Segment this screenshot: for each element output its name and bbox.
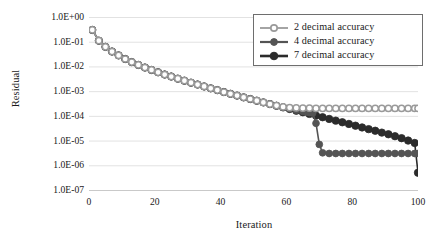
y-tick-label: 1.0E-03 — [28, 86, 84, 96]
x-tick-label: 60 — [266, 196, 306, 207]
data-point — [247, 96, 253, 102]
data-point — [241, 94, 247, 100]
data-point — [267, 101, 273, 107]
data-point — [122, 56, 128, 62]
data-point — [326, 150, 333, 157]
data-point — [392, 150, 399, 157]
data-point — [313, 105, 319, 111]
data-point — [102, 44, 108, 50]
data-point — [109, 48, 115, 54]
legend-item: 2 decimal accuracy — [259, 19, 416, 33]
data-point — [162, 71, 168, 77]
data-point — [332, 117, 339, 124]
data-point — [293, 105, 299, 111]
data-point — [398, 105, 404, 111]
data-point — [116, 52, 122, 58]
y-tick-label: 1.0E-07 — [28, 185, 84, 195]
y-tick-label: 1.0E-04 — [28, 111, 84, 121]
data-point — [366, 105, 372, 111]
data-point — [339, 150, 346, 157]
legend-item: 7 decimal accuracy — [259, 47, 416, 61]
data-point — [234, 93, 240, 99]
x-tick-label: 100 — [398, 196, 432, 207]
data-point — [188, 80, 194, 86]
data-point — [175, 76, 181, 82]
data-point — [129, 59, 135, 65]
data-point — [332, 150, 339, 157]
legend-label: 7 decimal accuracy — [294, 49, 374, 60]
data-point — [254, 98, 260, 104]
y-tick-label: 1.0E-06 — [28, 160, 84, 170]
data-point — [415, 105, 418, 111]
data-point — [168, 73, 174, 79]
legend-marker-icon — [259, 34, 289, 46]
data-point — [260, 99, 266, 105]
data-point — [379, 105, 385, 111]
data-point — [346, 150, 353, 157]
data-point — [306, 105, 312, 111]
data-point — [398, 150, 405, 157]
data-point — [339, 105, 345, 111]
data-point — [89, 27, 95, 33]
data-point — [333, 105, 339, 111]
data-point — [365, 125, 372, 132]
data-point — [227, 91, 233, 97]
data-point — [352, 150, 359, 157]
data-point — [378, 150, 385, 157]
data-point — [326, 105, 332, 111]
data-point — [201, 83, 207, 89]
y-tick-label: 1.0E-01 — [28, 37, 84, 47]
data-point — [96, 38, 102, 44]
data-point — [372, 105, 378, 111]
y-tick-label: 1.0E+00 — [28, 12, 84, 22]
data-point — [405, 150, 412, 157]
data-point — [181, 78, 187, 84]
data-point — [411, 139, 418, 146]
legend-marker-icon — [259, 20, 289, 32]
data-point — [359, 150, 366, 157]
data-point — [372, 150, 379, 157]
data-point — [385, 150, 392, 157]
data-point — [135, 62, 141, 68]
data-point — [319, 105, 325, 111]
x-tick-label: 0 — [69, 196, 109, 207]
x-tick-label: 40 — [201, 196, 241, 207]
data-point — [214, 87, 220, 93]
y-tick-label: 1.0E-02 — [28, 61, 84, 71]
data-point — [365, 150, 372, 157]
data-point — [142, 64, 148, 70]
legend-marker-icon — [259, 48, 289, 60]
data-point — [148, 67, 154, 73]
data-point — [313, 120, 320, 127]
data-point — [194, 81, 200, 87]
data-point — [359, 105, 365, 111]
y-tick-label: 1.0E-05 — [28, 136, 84, 146]
x-axis-title: Iteration — [89, 219, 419, 230]
data-point — [385, 105, 391, 111]
data-point — [405, 105, 411, 111]
data-point — [392, 105, 398, 111]
legend-item: 4 decimal accuracy — [259, 33, 416, 47]
data-point — [316, 141, 323, 148]
legend-label: 4 decimal accuracy — [294, 35, 374, 46]
data-point — [280, 104, 286, 110]
data-point — [346, 105, 352, 111]
residual-convergence-chart: Residual 1.0E+001.0E-011.0E-021.0E-031.0… — [0, 0, 432, 242]
data-point — [287, 105, 293, 111]
data-point — [319, 149, 326, 156]
chart-legend: 2 decimal accuracy4 decimal accuracy7 de… — [253, 14, 423, 66]
data-point — [300, 105, 306, 111]
data-point — [352, 105, 358, 111]
data-point — [414, 169, 418, 176]
x-tick-label: 20 — [135, 196, 175, 207]
data-point — [155, 69, 161, 75]
y-axis-title: Residual — [10, 44, 21, 134]
data-point — [221, 89, 227, 95]
legend-label: 2 decimal accuracy — [294, 21, 374, 32]
data-point — [273, 103, 279, 109]
data-point — [208, 85, 214, 91]
x-tick-label: 80 — [332, 196, 372, 207]
data-point — [415, 150, 418, 157]
